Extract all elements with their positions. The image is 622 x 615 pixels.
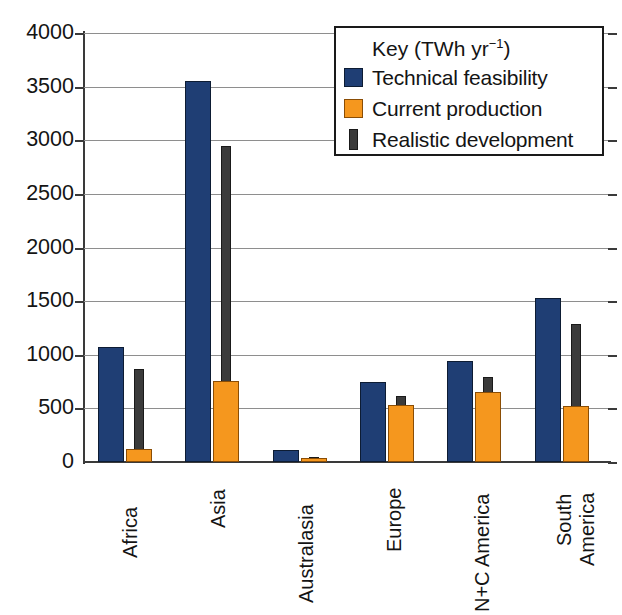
y-tick-mark: [75, 408, 84, 410]
legend-title-exponent: −1: [489, 36, 504, 51]
label-line: Australasia: [296, 504, 317, 603]
y-axis-labels: 4000 3500 3000 2500 2000 1500 1000 500 0: [0, 33, 78, 462]
chart-container: 4000 3500 3000 2500 2000 1500 1000 500 0: [0, 0, 622, 615]
y-tick-mark: [75, 301, 84, 303]
y-tick-mark-right: [608, 194, 617, 196]
bar-technical-feasibility[interactable]: [535, 298, 561, 462]
y-tick-mark-right: [608, 408, 617, 410]
bar-current-production[interactable]: [388, 405, 414, 462]
gridline: [84, 462, 608, 463]
bar-group: [259, 33, 346, 462]
legend-item-technical-feasibility[interactable]: Technical feasibility: [344, 62, 602, 93]
legend-item-label: Current production: [372, 97, 542, 121]
legend-swatch-icon: [349, 129, 358, 150]
bar-group: [171, 33, 258, 462]
y-tick-label: 500: [0, 398, 74, 420]
y-tick-mark: [75, 33, 84, 35]
legend-item-label: Technical feasibility: [372, 66, 548, 90]
y-tick-label: 3500: [0, 76, 74, 98]
y-tick-mark: [75, 194, 84, 196]
y-tick-mark-right: [608, 355, 617, 357]
chart-legend: Key (TWh yr−1) Technical feasibility Cur…: [334, 26, 604, 156]
bar-current-production[interactable]: [301, 458, 327, 462]
y-tick-mark-right: [608, 87, 617, 89]
y-tick-mark-right: [608, 248, 617, 250]
bar-technical-feasibility[interactable]: [447, 361, 473, 462]
y-tick-label: 3000: [0, 130, 74, 152]
y-tick-mark: [75, 87, 84, 89]
y-tick-label: 2000: [0, 237, 74, 259]
y-tick-mark-right: [608, 462, 617, 464]
bar-current-production[interactable]: [475, 392, 501, 462]
x-axis-labels: Africa Asia Australasia Europe N+C Ameri…: [84, 466, 608, 614]
y-tick-mark-right: [608, 301, 617, 303]
label-line: Europe: [384, 488, 405, 553]
label-line: Asia: [208, 489, 229, 528]
y-tick-mark-right: [608, 33, 617, 35]
bar-realistic-development[interactable]: [134, 369, 144, 462]
y-tick-label: 1000: [0, 344, 74, 366]
y-tick-label: 2500: [0, 183, 74, 205]
bar-current-production[interactable]: [126, 449, 152, 462]
y-tick-mark: [75, 355, 84, 357]
legend-title-text: Key (TWh yr: [372, 37, 489, 60]
legend-title: Key (TWh yr−1): [372, 36, 602, 61]
bar-technical-feasibility[interactable]: [360, 382, 386, 462]
y-tick-mark-right: [608, 140, 617, 142]
legend-swatch-icon: [344, 68, 363, 87]
y-tick-label: 0: [0, 451, 74, 473]
legend-item-realistic-development[interactable]: Realistic development: [344, 124, 602, 155]
label-line: South: [554, 494, 575, 546]
bar-current-production[interactable]: [213, 381, 239, 463]
y-tick-mark: [75, 248, 84, 250]
legend-item-label: Realistic development: [372, 128, 573, 152]
bar-group: [84, 33, 171, 462]
bar-technical-feasibility[interactable]: [185, 81, 211, 462]
legend-title-close: ): [504, 37, 511, 60]
bar-current-production[interactable]: [563, 406, 589, 462]
y-tick-label: 4000: [0, 22, 74, 44]
label-line: Africa: [120, 507, 141, 558]
bar-technical-feasibility[interactable]: [273, 450, 299, 462]
label-line: N+C America: [472, 494, 493, 612]
legend-item-current-production[interactable]: Current production: [344, 93, 602, 124]
y-tick-label: 1500: [0, 290, 74, 312]
label-line: America: [577, 493, 598, 566]
bar-technical-feasibility[interactable]: [98, 347, 124, 462]
legend-swatch-icon: [344, 99, 363, 118]
y-tick-mark: [75, 140, 84, 142]
